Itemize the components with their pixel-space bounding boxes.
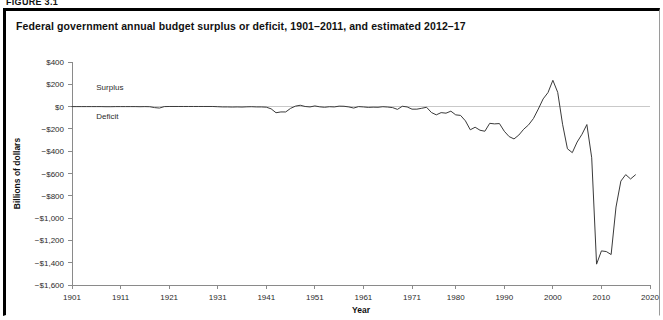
figure-container: FIGURE 3.1 Federal government annual bud… bbox=[0, 0, 663, 320]
figure-number-label: FIGURE 3.1 bbox=[6, 0, 58, 7]
figure-border-box bbox=[3, 8, 660, 316]
figure-title: Federal government annual budget surplus… bbox=[16, 20, 466, 32]
